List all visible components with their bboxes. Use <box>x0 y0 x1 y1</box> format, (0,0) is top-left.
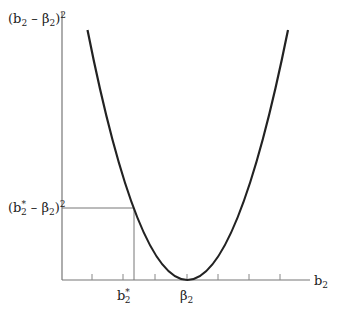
loss-curve <box>88 30 289 280</box>
tick-label-bstar: b*2 <box>117 287 131 305</box>
y-axis-label: (b2 – β2)2 <box>8 10 66 28</box>
level-label: (b*2 – β2)2 <box>8 199 65 217</box>
tick-label-beta: β2 <box>180 288 193 305</box>
diagram-canvas: (b2 – β2)2 (b*2 – β2)2 b2 b*2 β2 <box>0 0 340 313</box>
x-axis-label: b2 <box>314 273 328 290</box>
